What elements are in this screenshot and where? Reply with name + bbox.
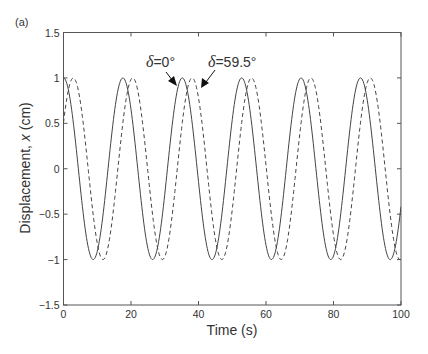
x-tick-label: 60 (260, 308, 272, 320)
x-tick-label: 100 (392, 308, 410, 320)
plot-area (64, 33, 402, 306)
y-tick-label: −1.5 (39, 299, 60, 311)
x-tick-label: 0 (61, 308, 67, 320)
y-tick-label: −0.5 (39, 208, 60, 220)
y-tick-label: 1.5 (45, 27, 60, 39)
y-tick-label: −1 (48, 254, 60, 266)
displacement-time-chart: (a) 020406080100 −1.5−1−0.500.511.5 δ=0°… (0, 0, 428, 354)
y-axis-title: Displacement, x (cm) (17, 102, 33, 233)
x-tick-label: 80 (328, 308, 340, 320)
panel-label: (a) (15, 16, 28, 28)
x-tick-label: 20 (125, 308, 137, 320)
y-tick-label: 0 (54, 163, 60, 175)
x-tick-label: 40 (193, 308, 205, 320)
annotation-delta-0-value: =0° (153, 54, 175, 70)
svg-text:δ=59.5°: δ=59.5° (208, 53, 256, 70)
y-tick-label: 0.5 (45, 117, 60, 129)
y-tick-label: 1 (54, 72, 60, 84)
annotation-delta-59-5-value: =59.5° (215, 54, 256, 70)
svg-text:δ=0°: δ=0° (146, 53, 175, 70)
x-axis-title: Time (s) (207, 322, 258, 338)
